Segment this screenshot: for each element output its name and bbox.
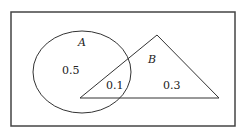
set-b-triangle xyxy=(80,35,219,98)
set-a-label: A xyxy=(77,36,86,49)
region-intersection-value: 0.1 xyxy=(106,79,124,92)
set-b-label: B xyxy=(147,53,156,66)
venn-diagram: A B 0.5 0.1 0.3 xyxy=(0,0,245,135)
universe-frame xyxy=(11,12,235,126)
region-b-only-value: 0.3 xyxy=(163,79,181,92)
region-a-only-value: 0.5 xyxy=(62,64,80,77)
